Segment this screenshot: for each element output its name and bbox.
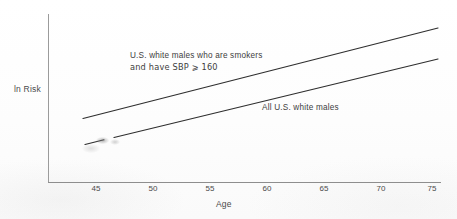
annotation-all-white-males: All U.S. white males bbox=[262, 103, 339, 112]
y-axis-label: ln Risk bbox=[14, 84, 41, 94]
x-tick-label: 60 bbox=[263, 184, 272, 193]
series-line-all-white-males bbox=[85, 140, 104, 145]
chart-plot-area bbox=[0, 0, 457, 219]
series-line-smokers-sbp160 bbox=[83, 28, 438, 119]
figure-container: ln Risk Age 45 50 55 60 65 70 75 U.S. wh… bbox=[0, 0, 457, 219]
x-tick-label: 65 bbox=[320, 184, 329, 193]
x-tick-label: 45 bbox=[92, 184, 101, 193]
x-tick-label: 75 bbox=[428, 184, 437, 193]
x-axis-label: Age bbox=[216, 199, 232, 209]
x-tick-label: 70 bbox=[377, 184, 386, 193]
annotation-smokers-sbp160: U.S. white males who are smokers and hav… bbox=[130, 50, 262, 73]
x-tick-label: 50 bbox=[149, 184, 158, 193]
x-tick-label: 55 bbox=[206, 184, 215, 193]
annotation-smokers-line2: and have SBP ⩾ 160 bbox=[130, 62, 262, 74]
annotation-smokers-line1: U.S. white males who are smokers bbox=[130, 51, 262, 60]
